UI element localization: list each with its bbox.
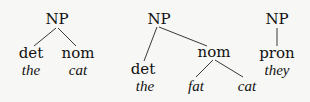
tree-3-word-they: they bbox=[265, 62, 290, 78]
tree-3: NP pron they bbox=[259, 10, 295, 78]
tree-3-pron-label: pron bbox=[259, 44, 295, 62]
tree-2-word-cat: cat bbox=[238, 78, 257, 94]
tree-2: NP det the nom fat cat bbox=[131, 10, 257, 94]
tree-2-word-fat: fat bbox=[188, 78, 205, 94]
tree-2-edge-nom-cat bbox=[215, 60, 243, 77]
tree-2-word-the: the bbox=[136, 78, 155, 94]
tree-2-root-np: NP bbox=[147, 10, 170, 28]
tree-1-word-the: the bbox=[22, 62, 41, 78]
tree-2-nom-label: nom bbox=[198, 43, 231, 61]
tree-1-det-label: det bbox=[19, 44, 44, 62]
tree-1-nom-label: nom bbox=[62, 44, 95, 62]
tree-1-root-np: NP bbox=[45, 10, 68, 28]
tree-2-edge-nom-fat bbox=[196, 60, 213, 77]
syntax-trees-diagram: NP det nom the cat NP det the nom fat ca… bbox=[0, 0, 310, 102]
tree-2-edge-np-det bbox=[144, 27, 157, 61]
tree-3-root-np: NP bbox=[265, 10, 288, 28]
tree-1-word-cat: cat bbox=[69, 62, 88, 78]
tree-1: NP det nom the cat bbox=[19, 10, 95, 78]
tree-2-det-label: det bbox=[131, 60, 156, 78]
